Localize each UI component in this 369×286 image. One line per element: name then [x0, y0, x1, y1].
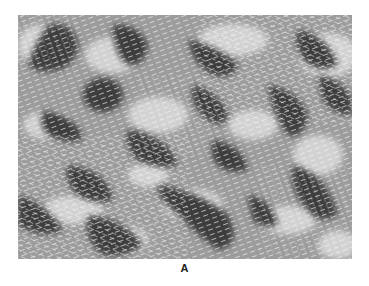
panel-label: A — [0, 262, 369, 274]
micrograph-image — [18, 15, 352, 259]
